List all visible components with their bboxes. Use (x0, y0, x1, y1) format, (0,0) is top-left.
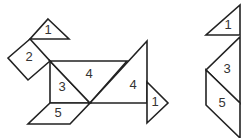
right-figure: 135 (206, 5, 240, 138)
piece-label: 1 (44, 22, 51, 37)
piece-label: 3 (58, 79, 65, 94)
left-figure: 1234451 (8, 19, 168, 124)
piece-label: 4 (85, 66, 92, 81)
tangram-diagram: 1234451 135 (0, 0, 242, 138)
piece-label: 5 (218, 95, 225, 110)
piece-label: 2 (25, 49, 32, 64)
piece-label: 1 (224, 17, 231, 32)
piece-label: 5 (54, 105, 61, 120)
piece-label: 3 (223, 61, 230, 76)
piece-label: 4 (129, 77, 136, 92)
piece-label: 1 (151, 94, 158, 109)
piece-tri-1 (206, 5, 240, 35)
